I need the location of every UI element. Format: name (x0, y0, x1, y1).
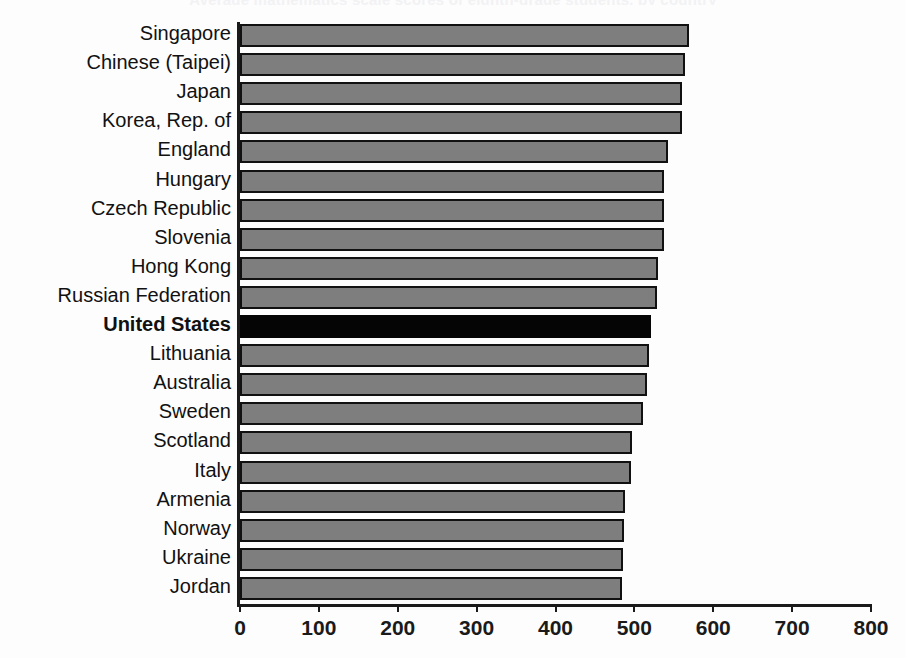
bar-row: Hong Kong (240, 255, 871, 284)
bar (240, 548, 623, 571)
bar-row: Armenia (240, 488, 871, 517)
bar (240, 577, 622, 600)
category-label: Slovenia (154, 226, 231, 249)
bar-row: Sweden (240, 400, 871, 429)
x-tick-500 (633, 604, 635, 612)
x-tick-0 (239, 604, 241, 612)
x-tick-label-0: 0 (205, 616, 275, 640)
category-label: Czech Republic (91, 197, 231, 220)
bar-row: Scotland (240, 429, 871, 458)
bar-row: Ukraine (240, 546, 871, 575)
bar-row: Russian Federation (240, 284, 871, 313)
bar-row: Czech Republic (240, 197, 871, 226)
bar-row: Italy (240, 459, 871, 488)
x-tick-400 (555, 604, 557, 612)
bar (240, 53, 685, 76)
bar-row: Slovenia (240, 226, 871, 255)
category-label: Hungary (155, 168, 231, 191)
bar (240, 431, 632, 454)
bar (240, 490, 625, 513)
x-tick-label-400: 400 (521, 616, 591, 640)
x-tick-800 (870, 604, 872, 612)
bar (240, 344, 649, 367)
bar (240, 24, 689, 47)
category-label: England (158, 138, 231, 161)
bar-row: Singapore (240, 22, 871, 51)
category-label: Australia (153, 371, 231, 394)
x-tick-label-300: 300 (442, 616, 512, 640)
bar (240, 82, 682, 105)
bar (240, 199, 664, 222)
bar-row: Korea, Rep. of (240, 109, 871, 138)
bar-highlighted (240, 315, 651, 338)
bar (240, 461, 631, 484)
category-label: Chinese (Taipei) (86, 51, 231, 74)
x-tick-700 (791, 604, 793, 612)
category-label: Italy (194, 459, 231, 482)
x-tick-300 (476, 604, 478, 612)
x-tick-label-500: 500 (599, 616, 669, 640)
bar-row: Chinese (Taipei) (240, 51, 871, 80)
category-label: Singapore (140, 22, 231, 45)
bar (240, 402, 643, 425)
x-tick-label-100: 100 (284, 616, 354, 640)
category-label: Jordan (170, 575, 231, 598)
chart-title: Average mathematics scale scores of eigh… (0, 0, 906, 5)
bar (240, 228, 664, 251)
x-tick-100 (318, 604, 320, 612)
bar (240, 140, 668, 163)
x-tick-200 (397, 604, 399, 612)
bar (240, 170, 664, 193)
category-label: Russian Federation (58, 284, 231, 307)
bar-row: Australia (240, 371, 871, 400)
bar-row: Jordan (240, 575, 871, 604)
bar-row: Hungary (240, 168, 871, 197)
bar (240, 111, 682, 134)
x-tick-label-600: 600 (678, 616, 748, 640)
x-tick-label-800: 800 (836, 616, 906, 640)
x-tick-600 (712, 604, 714, 612)
bar-chart: Average mathematics scale scores of eigh… (0, 0, 906, 658)
category-label: Hong Kong (131, 255, 231, 278)
bar (240, 373, 647, 396)
bar (240, 286, 657, 309)
category-label: Korea, Rep. of (102, 109, 231, 132)
category-label: Japan (177, 80, 232, 103)
bar-row: Lithuania (240, 342, 871, 371)
bar-row: Norway (240, 517, 871, 546)
category-label: Sweden (159, 400, 231, 423)
plot-area: 0100200300400500600700800 SingaporeChine… (240, 22, 871, 604)
x-tick-label-200: 200 (363, 616, 433, 640)
category-label: Lithuania (150, 342, 231, 365)
category-label: Ukraine (162, 546, 231, 569)
bar-row: United States (240, 313, 871, 342)
category-label: Norway (163, 517, 231, 540)
category-label: Armenia (157, 488, 231, 511)
category-label: United States (103, 313, 231, 336)
bar-row: Japan (240, 80, 871, 109)
bar-row: England (240, 138, 871, 167)
bar (240, 257, 658, 280)
bar (240, 519, 624, 542)
category-label: Scotland (153, 429, 231, 452)
x-tick-label-700: 700 (757, 616, 827, 640)
